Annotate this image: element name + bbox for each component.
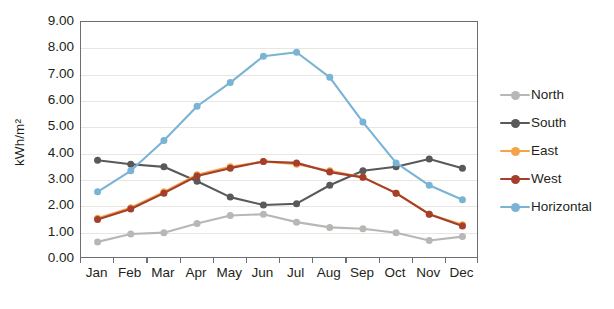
x-axis-tick-mark	[379, 258, 380, 263]
y-axis-tick-label: 1.00	[26, 224, 74, 240]
x-axis-tick-mark	[180, 258, 181, 263]
data-point	[393, 190, 400, 197]
data-point	[127, 167, 134, 174]
data-point	[426, 237, 433, 244]
x-axis-tick-label: Oct	[379, 264, 412, 282]
data-point	[160, 137, 167, 144]
legend-marker-icon	[500, 144, 530, 158]
legend: NorthSouthEastWestHorizontal	[500, 86, 612, 216]
data-point	[260, 53, 267, 60]
y-axis-title: kWh/m²	[12, 93, 27, 193]
data-point	[127, 205, 134, 212]
x-axis-tick-mark	[279, 258, 280, 263]
data-point	[94, 157, 101, 164]
legend-dot	[511, 119, 520, 128]
y-axis-tick-label: 9.00	[26, 13, 74, 29]
legend-marker-icon	[500, 116, 530, 130]
data-point	[127, 161, 134, 168]
data-point	[194, 173, 201, 180]
data-point	[127, 230, 134, 237]
legend-item-horizontal[interactable]: Horizontal	[500, 198, 592, 216]
data-point	[393, 229, 400, 236]
data-point	[293, 219, 300, 226]
solar-irradiation-line-chart: kWh/m² 9.008.007.006.005.004.003.002.001…	[0, 0, 614, 309]
x-axis-tick-label: May	[213, 264, 246, 282]
legend-dot	[511, 91, 520, 100]
x-axis-tick-mark	[146, 258, 147, 263]
y-axis-tick-label: 8.00	[26, 39, 74, 55]
data-point	[260, 158, 267, 165]
data-point	[426, 155, 433, 162]
x-axis-tick-label: Jan	[80, 264, 113, 282]
data-point	[293, 49, 300, 56]
data-point	[459, 223, 466, 230]
data-point	[326, 182, 333, 189]
y-axis-tick-label: 3.00	[26, 171, 74, 187]
data-point	[326, 224, 333, 231]
legend-dot	[511, 175, 520, 184]
x-axis-tick-label: Mar	[146, 264, 179, 282]
series-line	[98, 214, 463, 242]
data-point	[459, 165, 466, 172]
data-point	[260, 202, 267, 209]
plot-area	[80, 21, 478, 258]
y-axis-tick-label: 7.00	[26, 66, 74, 82]
data-point	[227, 79, 234, 86]
x-axis-tick-label: Apr	[180, 264, 213, 282]
x-axis-tick-mark	[477, 258, 478, 263]
legend-item-north[interactable]: North	[500, 86, 564, 104]
legend-label: South	[531, 115, 566, 131]
x-axis-tick-mark	[412, 258, 413, 263]
legend-item-west[interactable]: West	[500, 170, 562, 188]
data-point	[194, 220, 201, 227]
x-axis-tick-mark	[445, 258, 446, 263]
x-axis-tick-labels: JanFebMarAprMayJunJulAugSepOctNovDec	[80, 264, 478, 284]
x-axis-tick-mark	[312, 258, 313, 263]
legend-label: Horizontal	[531, 199, 592, 215]
x-axis-tick-label: Aug	[312, 264, 345, 282]
data-point	[160, 163, 167, 170]
data-point	[459, 233, 466, 240]
x-axis-tick-label: Feb	[113, 264, 146, 282]
series-layer	[81, 22, 479, 259]
data-point	[393, 159, 400, 166]
legend-label: North	[531, 87, 564, 103]
y-axis-tick-label: 4.00	[26, 145, 74, 161]
data-point	[227, 194, 234, 201]
data-point	[359, 225, 366, 232]
x-axis-tick-mark	[213, 258, 214, 263]
data-point	[426, 182, 433, 189]
data-point	[260, 211, 267, 218]
legend-label: West	[531, 171, 562, 187]
legend-item-east[interactable]: East	[500, 142, 558, 160]
x-axis-tick-label: Jul	[279, 264, 312, 282]
data-point	[293, 200, 300, 207]
x-axis-tick-label: Nov	[412, 264, 445, 282]
y-axis-tick-label: 0.00	[26, 250, 74, 266]
data-point	[359, 167, 366, 174]
legend-marker-icon	[500, 88, 530, 102]
y-axis-tick-labels: 9.008.007.006.005.004.003.002.001.000.00	[26, 13, 74, 266]
x-axis-tick-mark	[113, 258, 114, 263]
legend-dot	[511, 147, 520, 156]
data-point	[359, 119, 366, 126]
data-point	[227, 165, 234, 172]
caption-sliver	[0, 300, 614, 309]
legend-dot	[511, 203, 520, 212]
x-axis-tick-mark	[80, 258, 81, 263]
y-axis-tick-label: 2.00	[26, 197, 74, 213]
data-point	[326, 169, 333, 176]
legend-marker-icon	[500, 172, 530, 186]
data-point	[326, 74, 333, 81]
legend-marker-icon	[500, 200, 530, 214]
data-point	[194, 103, 201, 110]
data-point	[459, 196, 466, 203]
data-point	[94, 188, 101, 195]
x-axis-tick-mark	[345, 258, 346, 263]
y-axis-tick-label: 5.00	[26, 118, 74, 134]
series-line	[98, 52, 463, 199]
legend-item-south[interactable]: South	[500, 114, 566, 132]
data-point	[227, 212, 234, 219]
x-axis-tick-label: Sep	[345, 264, 378, 282]
data-point	[160, 229, 167, 236]
